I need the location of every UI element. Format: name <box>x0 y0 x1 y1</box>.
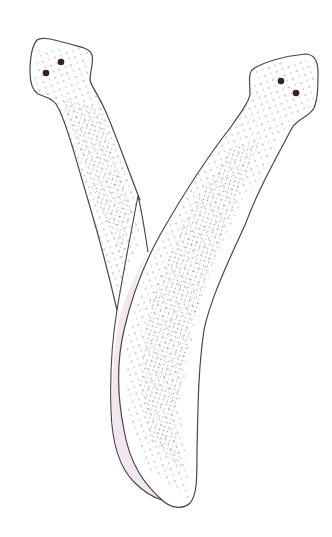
right-lobe-spot-1 <box>278 78 285 85</box>
left-lobe <box>30 38 148 310</box>
right-lobe <box>119 54 318 507</box>
left-lobe-spot-2 <box>58 59 65 66</box>
illustration-canvas <box>0 0 332 537</box>
right-lobe-spot-2 <box>293 90 300 97</box>
left-lobe-spot-1 <box>43 70 50 77</box>
illustration: Y-shaped line-drawing illustration of tw… <box>0 0 332 537</box>
